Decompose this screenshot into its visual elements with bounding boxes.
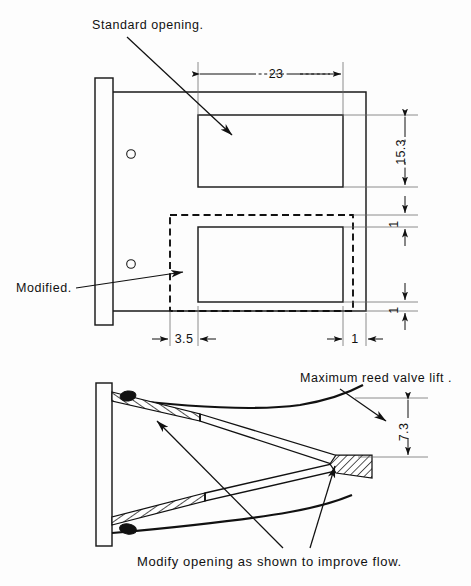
leader-standard-opening: [127, 37, 232, 135]
dimension-gap-1-lower: 1: [387, 283, 405, 330]
dim-label-7-3: 7.3: [397, 423, 411, 441]
dimension-gap-1-upper: 1: [387, 196, 405, 246]
leader-caption-left: [157, 421, 283, 548]
leader-modified: [76, 272, 183, 288]
technical-drawing-canvas: 23 15.3 1 1: [0, 0, 471, 586]
label-modified: Modified.: [16, 281, 72, 295]
leader-max-reed-valve-lift: [340, 389, 386, 421]
dimension-height-15-3: 15.3: [394, 117, 408, 185]
cage-wall-upper-plain: [200, 414, 338, 466]
dim-label-3-5: 3.5: [175, 332, 193, 346]
modified-opening-rect: [198, 227, 343, 302]
caption-modify-opening: Modify opening as shown to improve flow.: [137, 554, 402, 569]
cage-wall-lower-plain: [205, 462, 340, 501]
label-standard-opening: Standard opening.: [92, 18, 204, 32]
bolt-hole-lower: [127, 260, 136, 269]
dim-label-1-upper: 1: [387, 220, 401, 227]
dimension-edge-1: 1: [327, 332, 383, 346]
front-view: 23 15.3 1 1: [16, 18, 418, 346]
apex-wedge-block: [330, 455, 372, 478]
drawing-sheet: 23 15.3 1 1: [0, 0, 471, 586]
side-flange-plate: [96, 383, 112, 546]
standard-opening-rect: [198, 115, 343, 187]
dimension-offset-3-5: 3.5: [152, 332, 216, 346]
bolt-hole-upper: [127, 150, 136, 159]
dim-label-1-edge: 1: [351, 332, 358, 346]
dimension-lift-7-3: 7.3: [397, 400, 411, 455]
cage-wall-lower: [112, 493, 205, 525]
dim-label-23: 23: [269, 67, 284, 81]
dimension-width-23: 23: [200, 67, 341, 81]
label-max-reed-valve-lift: Maximum reed valve lift .: [300, 371, 452, 385]
dim-label-15-3: 15.3: [394, 139, 408, 165]
flange-plate: [95, 78, 113, 325]
reed-bead-lower: [119, 523, 137, 536]
side-section-view: 7.3 Maximum reed valve lift . Modify ope…: [96, 371, 452, 569]
dim-label-1-lower: 1: [387, 306, 401, 313]
cage-body-outline: [113, 92, 366, 311]
